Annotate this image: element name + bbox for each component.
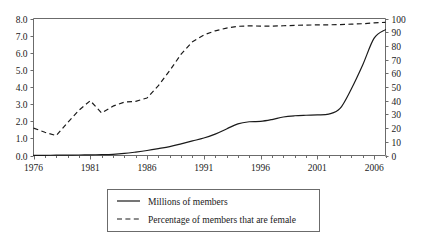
right-axis-tick-label: 90: [392, 28, 402, 38]
left-axis-tick-label: 5.0: [16, 66, 28, 76]
x-axis: 1976198119861991199620012006: [24, 156, 387, 173]
right-axis-tick-label: 0: [392, 152, 397, 162]
left-axis-tick-label: 3.0: [16, 100, 28, 110]
x-axis-tick-label: 1986: [138, 163, 157, 173]
right-axis-tick-label: 30: [392, 110, 402, 120]
legend-label-percentage-female: Percentage of members that are female: [148, 215, 296, 225]
plot-frame: [34, 19, 386, 156]
right-axis-tick-label: 100: [392, 15, 407, 25]
right-axis-tick-label: 10: [392, 138, 402, 148]
left-axis-tick-label: 4.0: [16, 83, 28, 93]
x-axis-tick-label: 1976: [24, 163, 43, 173]
right-axis-tick-label: 60: [392, 69, 402, 79]
x-axis-tick-label: 1996: [251, 163, 270, 173]
x-axis-tick-label: 1991: [194, 163, 213, 173]
left-axis-tick-label: 7.0: [16, 32, 28, 42]
left-axis-tick-label: 0.0: [16, 152, 28, 162]
left-axis-tick-label: 6.0: [16, 49, 28, 59]
left-axis: 0.01.02.03.04.05.06.07.08.0: [16, 15, 34, 162]
chart-figure: 0.01.02.03.04.05.06.07.08.0 010203040506…: [0, 0, 425, 241]
left-axis-tick-label: 1.0: [16, 134, 28, 144]
right-axis-tick-label: 20: [392, 124, 402, 134]
left-axis-tick-label: 2.0: [16, 117, 28, 127]
right-axis: 0102030405060708090100: [386, 15, 407, 162]
right-axis-tick-label: 50: [392, 83, 402, 93]
series-group: [34, 22, 386, 155]
x-axis-tick-label: 2006: [365, 163, 384, 173]
right-axis-tick-label: 40: [392, 97, 402, 107]
x-axis-tick-label: 1981: [81, 163, 100, 173]
x-axis-tick-label: 2001: [308, 163, 327, 173]
line-chart: 0.01.02.03.04.05.06.07.08.0 010203040506…: [0, 0, 425, 241]
legend: Millions of members Percentage of member…: [108, 190, 320, 232]
right-axis-tick-label: 70: [392, 56, 402, 66]
left-axis-tick-label: 8.0: [16, 15, 28, 25]
series-millions-of-members: [34, 30, 386, 156]
legend-label-millions-of-members: Millions of members: [148, 197, 228, 207]
series-percentage-female: [34, 22, 386, 135]
right-axis-tick-label: 80: [392, 42, 402, 52]
